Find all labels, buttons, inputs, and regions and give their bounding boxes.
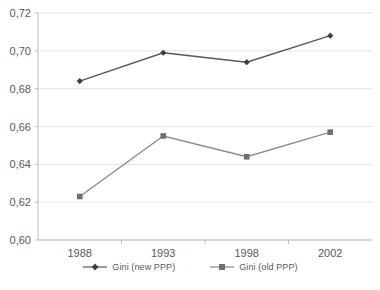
y-axis-tick-label: 0,62: [10, 196, 31, 208]
data-point-marker: [327, 129, 333, 135]
data-point-marker: [160, 133, 166, 139]
axis-lines: [35, 13, 372, 244]
data-point-marker: [244, 59, 250, 65]
data-point-marker: [327, 33, 333, 39]
x-axis-tick-label: 1998: [235, 247, 259, 259]
y-axis-tick-label: 0,72: [10, 7, 31, 19]
legend-label-gini-new-ppp: Gini (new PPP): [112, 262, 175, 272]
x-axis-tick-label: 1988: [68, 247, 92, 259]
chart-plot-area: 0,720,700,680,660,640,620,60 19881993199…: [0, 0, 380, 290]
data-series-layer: [77, 33, 334, 200]
y-axis-tick-label: 0,66: [10, 121, 31, 133]
legend-entry-gini-new-ppp[interactable]: Gini (new PPP): [82, 262, 175, 272]
y-axis-tick-label: 0,68: [10, 83, 31, 95]
series-line: [80, 36, 331, 81]
y-axis-tick-label: 0,60: [10, 234, 31, 246]
square-marker-icon: [209, 262, 235, 272]
gridlines: [38, 13, 372, 240]
x-axis-tick-labels: 1988199319982002: [68, 247, 343, 259]
legend-label-gini-old-ppp: Gini (old PPP): [239, 262, 297, 272]
y-axis-tick-label: 0,64: [10, 158, 31, 170]
x-axis-tick-label: 1993: [151, 247, 175, 259]
data-point-marker: [77, 194, 83, 200]
y-axis-tick-labels: 0,720,700,680,660,640,620,60: [10, 7, 31, 246]
chart-legend: Gini (new PPP) Gini (old PPP): [0, 262, 380, 272]
legend-entry-gini-old-ppp[interactable]: Gini (old PPP): [209, 262, 297, 272]
line-chart: 0,720,700,680,660,640,620,60 19881993199…: [0, 0, 380, 290]
x-axis-tick-label: 2002: [318, 247, 342, 259]
y-axis-tick-label: 0,70: [10, 45, 31, 57]
data-point-marker: [77, 78, 83, 84]
data-point-marker: [244, 154, 250, 160]
diamond-marker-icon: [82, 262, 108, 272]
